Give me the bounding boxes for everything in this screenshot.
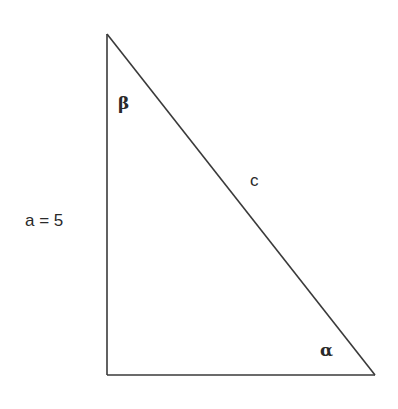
side-a-label: a = 5 — [25, 212, 63, 229]
hypotenuse-label: c — [250, 172, 259, 189]
angle-alpha-label: α — [320, 342, 333, 359]
triangle-shape — [0, 0, 398, 409]
hypotenuse-c-line — [107, 34, 375, 375]
triangle-diagram: a = 5 c β α — [0, 0, 398, 409]
angle-beta-label: β — [118, 95, 129, 112]
